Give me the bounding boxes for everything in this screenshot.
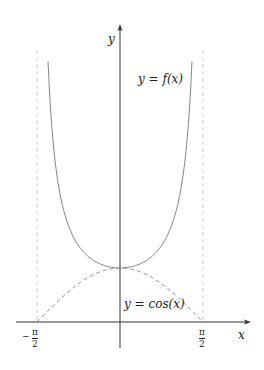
y-axis-label: y xyxy=(108,32,115,46)
tick-label-pi-half: π 2 xyxy=(199,328,205,349)
plot-area xyxy=(0,0,264,370)
cos-curve-label: y = cos(x) xyxy=(124,297,185,311)
tick-label-neg-pi-half: − π 2 xyxy=(22,328,38,349)
f-curve-label: y = f(x) xyxy=(138,72,183,86)
x-axis-label: x xyxy=(238,328,245,342)
